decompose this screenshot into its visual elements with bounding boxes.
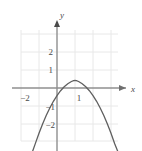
parabola-graph: −2 1 2 1 −1 −2 x y xyxy=(0,0,142,151)
y-tick-label-2: 2 xyxy=(49,47,54,57)
figure-root: 1.24 2 x y xyxy=(0,0,142,151)
y-axis-label: y xyxy=(59,10,64,20)
x-tick-label-1: 1 xyxy=(77,93,82,103)
x-tick-label-neg2: −2 xyxy=(20,93,30,103)
y-tick-label-neg1: −1 xyxy=(45,102,55,112)
y-tick-label-neg2: −2 xyxy=(45,120,55,130)
y-tick-label-1: 1 xyxy=(49,65,54,75)
x-axis-label: x xyxy=(130,84,135,94)
